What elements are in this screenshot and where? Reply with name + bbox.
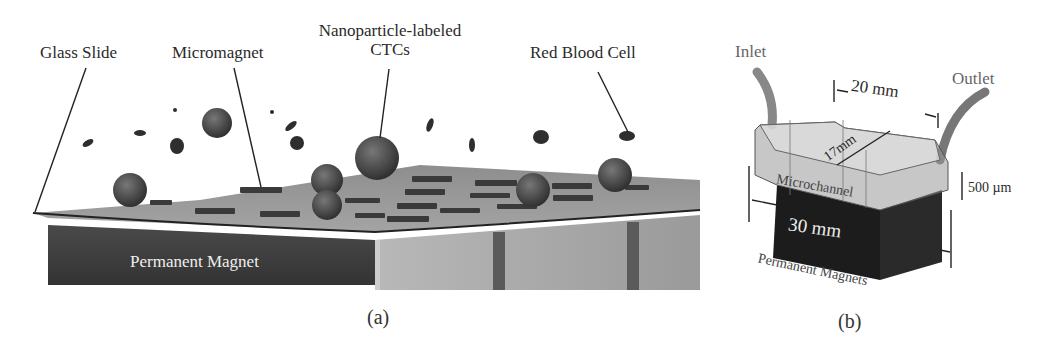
height-dimension-label: 500 µm	[968, 180, 1011, 195]
outlet-label: Outlet	[952, 70, 995, 89]
inlet-tube	[757, 72, 772, 125]
outlet-tube	[940, 92, 985, 160]
panel-b-caption: (b)	[838, 310, 861, 333]
panel-b-illustration	[0, 0, 1053, 358]
inlet-label: Inlet	[735, 43, 766, 62]
